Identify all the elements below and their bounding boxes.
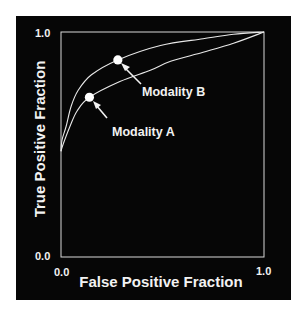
arrow-modality-b (121, 63, 141, 84)
y-axis-label: True Positive Fraction (31, 61, 48, 218)
x-tick-max: 1.0 (256, 265, 271, 277)
marker-modality-b (113, 55, 122, 64)
annotation-modality-a: Modality A (112, 125, 175, 139)
roc-chart: Modality B Modality A 1.0 0.0 0.0 1.0 Fa… (0, 0, 305, 319)
plot-frame (61, 32, 264, 257)
x-tick-min: 0.0 (54, 266, 69, 278)
y-tick-max: 1.0 (35, 27, 50, 39)
arrow-modality-a (93, 101, 107, 118)
marker-modality-a (85, 93, 94, 102)
y-tick-min: 0.0 (35, 250, 50, 262)
x-axis-label: False Positive Fraction (79, 273, 242, 290)
annotation-modality-b: Modality B (142, 85, 205, 99)
